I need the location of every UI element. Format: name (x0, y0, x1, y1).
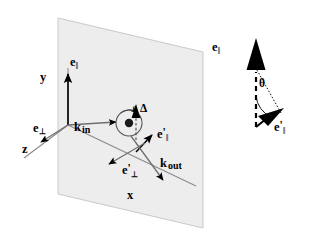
vector-label-e-parallel-out: e'‖ (157, 127, 168, 143)
axis-label-y: y (40, 71, 46, 84)
k-in-base: k (74, 120, 81, 134)
inset-label-theta: θ (259, 78, 265, 90)
e-parallel-out-subscript: ‖ (166, 132, 168, 143)
scattering-center-dot (125, 119, 133, 127)
inset-e-parallel-in-subscript: ‖ (218, 45, 220, 56)
k-out-base: k (160, 156, 167, 170)
vector-label-k-in: kin (74, 121, 90, 135)
scattering-geometry-diagram (0, 0, 314, 248)
inset-e-parallel-out-subscript: ‖ (283, 125, 285, 136)
e-parallel-inset-arrowhead (247, 38, 266, 70)
vector-label-e-parallel-in: e‖ (70, 56, 78, 71)
e-perp-out-subscript: ⊥ (131, 170, 138, 179)
e-perp-in-subscript: ⊥ (39, 127, 46, 136)
vector-label-k-out: kout (160, 157, 182, 171)
inset-label-e-parallel-out: e'‖ (274, 120, 285, 136)
e-parallel-in-subscript: ‖ (76, 60, 78, 71)
spin-label: σ (133, 104, 136, 110)
vector-label-e-perp-in: e⊥ (33, 122, 45, 137)
k-out-subscript: out (168, 160, 182, 171)
vector-label-e-perp-out: e'⊥ (122, 163, 138, 179)
k-in-subscript: in (82, 124, 90, 135)
axis-label-x: x (127, 189, 133, 202)
figure-canvas: y x z e‖ e⊥ kin e'‖ e'⊥ kout Δ σ e‖ e'‖ … (0, 0, 314, 248)
inset-label-e-parallel-in: e‖ (212, 41, 220, 56)
axis-label-z: z (22, 143, 28, 156)
vector-label-delta: Δ (140, 103, 147, 115)
